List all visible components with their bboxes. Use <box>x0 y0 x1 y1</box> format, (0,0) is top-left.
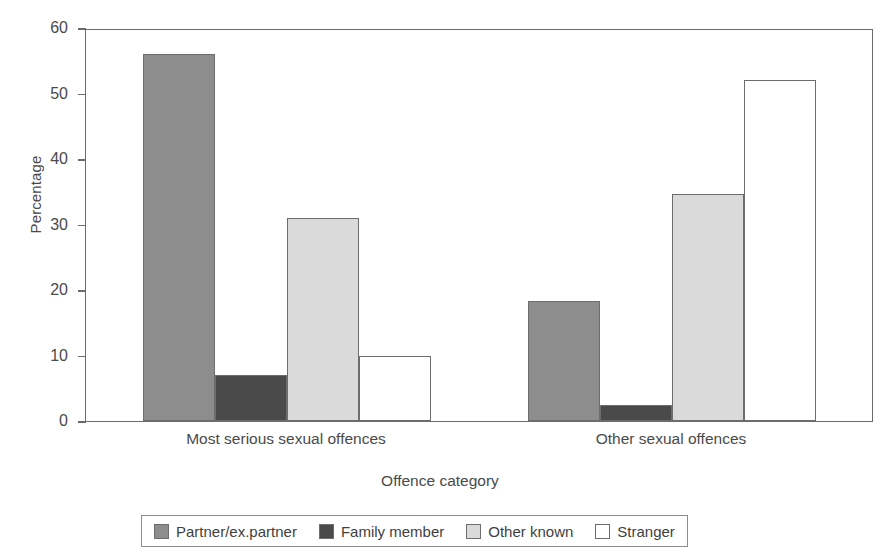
y-tick-label: 40 <box>22 151 68 167</box>
bar <box>600 405 672 421</box>
y-tick-label: 30 <box>22 217 68 233</box>
legend-label: Other known <box>488 524 573 539</box>
y-tick-label: 20 <box>22 282 68 298</box>
y-axis-title: Percentage <box>27 115 44 275</box>
y-tick-label: 50 <box>22 86 68 102</box>
bar <box>359 356 431 422</box>
plot-area <box>85 29 873 422</box>
y-tick-label: 0 <box>22 413 68 429</box>
bar-chart: Percentage 6050403020100 Most serious se… <box>0 0 880 558</box>
x-tick-label: Other sexual offences <box>471 430 871 448</box>
legend-label: Stranger <box>617 524 675 539</box>
legend-item: Family member <box>319 524 444 539</box>
x-axis-title: Offence category <box>0 472 880 490</box>
legend-item: Stranger <box>595 524 675 539</box>
y-tick-label: 10 <box>22 348 68 364</box>
legend-swatch-icon <box>466 524 481 539</box>
bar <box>672 194 744 421</box>
bar <box>744 80 816 421</box>
legend: Partner/ex.partnerFamily memberOther kno… <box>141 515 688 547</box>
bar <box>215 375 287 421</box>
legend-swatch-icon <box>595 524 610 539</box>
bar <box>287 218 359 421</box>
legend-label: Family member <box>341 524 444 539</box>
x-tick-label: Most serious sexual offences <box>86 430 486 448</box>
legend-label: Partner/ex.partner <box>176 524 297 539</box>
bar <box>528 301 600 421</box>
legend-item: Other known <box>466 524 573 539</box>
legend-item: Partner/ex.partner <box>154 524 297 539</box>
legend-swatch-icon <box>154 524 169 539</box>
y-tick-label: 60 <box>22 20 68 36</box>
bar <box>143 54 215 421</box>
legend-swatch-icon <box>319 524 334 539</box>
